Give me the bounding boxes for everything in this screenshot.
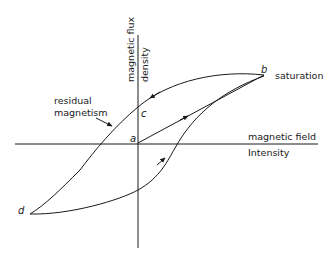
lower-branch-arrow xyxy=(157,158,165,165)
y-axis-label-line1: magnetic flux xyxy=(125,16,136,82)
upper-branch-arrow xyxy=(150,92,160,98)
y-axis-label-line2: density xyxy=(139,47,150,82)
point-label-c: c xyxy=(141,108,147,119)
residual-label-line1: residual xyxy=(54,95,92,106)
x-axis-label-line1: magnetic field xyxy=(248,131,316,142)
x-axis-label-line2: Intensity xyxy=(248,147,290,158)
saturation-label: saturation xyxy=(275,70,323,81)
initial-curve xyxy=(138,75,264,143)
point-label-d: d xyxy=(18,205,25,216)
hysteresis-diagram: magnetic flux density magnetic field Int… xyxy=(0,0,333,255)
initial-curve-arrow xyxy=(180,116,188,120)
residual-pointer-arrow xyxy=(96,118,112,126)
residual-label-line2: magnetism xyxy=(54,107,108,118)
point-label-a: a xyxy=(130,133,136,144)
point-label-b: b xyxy=(261,64,267,75)
